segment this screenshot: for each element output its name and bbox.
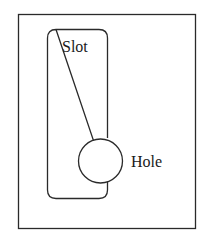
hole-label: Hole — [131, 153, 162, 170]
slot-label: Slot — [62, 38, 88, 55]
slot-hole-diagram: Slot Hole — [0, 0, 206, 239]
hole-circle — [79, 139, 123, 183]
